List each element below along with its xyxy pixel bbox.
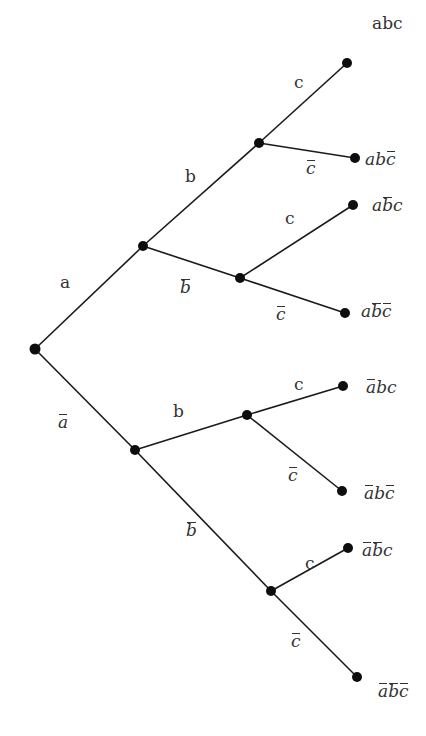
tree-node-not_a_not_b_c bbox=[343, 543, 353, 553]
tree-edge-ab-to-ab_not_c bbox=[259, 143, 355, 158]
tree-node-not_a_b bbox=[242, 410, 252, 420]
tree-node-not_a_not_b_not_c bbox=[352, 672, 362, 682]
tree-node-not_a_bc bbox=[338, 381, 348, 391]
tree-edge-a_not_b-to-a_not_b_c bbox=[240, 205, 353, 278]
tree-edge-not_a-to-not_a_not_b bbox=[135, 450, 271, 591]
edge-label-abc: c bbox=[294, 74, 304, 91]
leaf-label-abc: abc bbox=[372, 15, 403, 32]
edge-label-a: a bbox=[60, 274, 70, 291]
edge-label-not_a_b_not_c: c bbox=[288, 467, 298, 484]
tree-edges bbox=[35, 63, 357, 677]
tree-node-ab bbox=[254, 138, 264, 148]
edge-label-a_not_b: b bbox=[180, 279, 191, 296]
probability-tree bbox=[0, 0, 426, 736]
leaf-label-a_not_b_c: abc bbox=[372, 197, 403, 214]
tree-node-abc bbox=[342, 58, 352, 68]
leaf-label-not_a_b_not_c: abc bbox=[364, 485, 395, 502]
edge-label-not_a_bc: c bbox=[294, 376, 304, 393]
tree-edge-a_not_b-to-a_not_b_not_c bbox=[240, 278, 345, 313]
edge-label-a_not_b_not_c: c bbox=[276, 306, 286, 323]
edge-label-ab_not_c: c bbox=[306, 160, 316, 177]
edge-label-not_a_not_b_c: c bbox=[305, 555, 315, 572]
tree-node-not_a_not_b bbox=[266, 586, 276, 596]
leaf-label-not_a_not_b_not_c: abc bbox=[378, 683, 409, 700]
tree-node-a bbox=[138, 241, 148, 251]
edge-label-not_a: a bbox=[58, 414, 68, 431]
tree-edge-a-to-ab bbox=[143, 143, 259, 246]
edge-label-a_not_b_c: c bbox=[285, 210, 295, 227]
edge-label-not_a_b: b bbox=[173, 403, 184, 420]
tree-node-a_not_b_c bbox=[348, 200, 358, 210]
leaf-label-ab_not_c: abc bbox=[365, 151, 396, 168]
tree-edge-root-to-a bbox=[35, 246, 143, 349]
leaf-label-a_not_b_not_c: abc bbox=[361, 303, 392, 320]
tree-edge-a-to-a_not_b bbox=[143, 246, 240, 278]
edge-label-not_a_not_b: b bbox=[186, 522, 197, 539]
leaf-label-not_a_bc: abc bbox=[366, 379, 397, 396]
leaf-label-not_a_not_b_c: abc bbox=[362, 542, 393, 559]
tree-edge-root-to-not_a bbox=[35, 349, 135, 450]
tree-node-root bbox=[30, 344, 41, 355]
tree-edge-not_a_not_b-to-not_a_not_b_not_c bbox=[271, 591, 357, 677]
tree-node-a_not_b bbox=[235, 273, 245, 283]
tree-node-a_not_b_not_c bbox=[340, 308, 350, 318]
edge-label-ab: b bbox=[185, 168, 196, 185]
tree-node-not_a_b_not_c bbox=[337, 486, 347, 496]
tree-node-ab_not_c bbox=[350, 153, 360, 163]
tree-node-not_a bbox=[130, 445, 140, 455]
tree-edge-not_a-to-not_a_b bbox=[135, 415, 247, 450]
edge-label-not_a_not_b_not_c: c bbox=[291, 633, 301, 650]
